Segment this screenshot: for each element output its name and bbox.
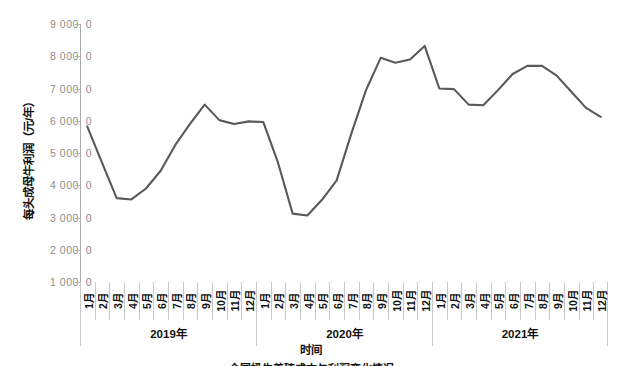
- x-axis-month-cell: 8月: [535, 282, 550, 320]
- x-tick-label: 11月: [403, 290, 418, 311]
- x-axis-month-cell: 4月: [476, 282, 491, 320]
- x-axis-month-cell: 1月: [80, 282, 95, 320]
- x-axis-month-cell: 2月: [271, 282, 286, 320]
- x-tick-label: 5月: [315, 293, 330, 309]
- x-axis-month-cell: 8月: [183, 282, 198, 320]
- x-tick-label: 9月: [198, 293, 213, 309]
- x-axis-month-cell: 6月: [505, 282, 520, 320]
- x-tick-label: 12月: [418, 290, 433, 312]
- x-axis-month-cell: 10月: [388, 282, 403, 320]
- x-tick-label: 7月: [168, 293, 183, 309]
- x-axis-month-cell: 4月: [300, 282, 315, 320]
- x-tick-label: 8月: [183, 293, 198, 309]
- x-axis-month-cell: 6月: [329, 282, 344, 320]
- x-tick-label: 8月: [359, 293, 374, 309]
- x-axis-month-cell: 8月: [359, 282, 374, 320]
- x-axis-month-cell: 6月: [153, 282, 168, 320]
- x-tick-label: 10月: [388, 290, 403, 312]
- x-axis-year-label: 2021年: [502, 325, 539, 341]
- x-axis-month-cell: 2月: [447, 282, 462, 320]
- x-tick-label: 6月: [330, 293, 345, 309]
- x-tick-label: 6月: [154, 293, 169, 309]
- x-axis-month-cell: 11月: [227, 282, 242, 320]
- y-tick-mark: [75, 24, 80, 25]
- x-tick-label: 9月: [374, 293, 389, 309]
- x-axis-month-cell: 9月: [197, 282, 212, 320]
- x-tick-label: 11月: [579, 290, 594, 311]
- x-axis-month-cell: 11月: [579, 282, 594, 320]
- x-tick-label: 3月: [110, 293, 125, 309]
- x-tick-label: 8月: [535, 293, 550, 309]
- x-tick-label: 1月: [432, 293, 447, 309]
- y-tick-mark: [75, 89, 80, 90]
- x-tick-label: 11月: [227, 290, 242, 311]
- x-tick-label: 9月: [550, 293, 565, 309]
- x-tick-label: 12月: [593, 290, 608, 312]
- x-axis-month-cell: 4月: [124, 282, 139, 320]
- x-tick-label: 3月: [462, 293, 477, 309]
- x-axis-month-cell: 1月: [432, 282, 447, 320]
- figure-caption: 全国奶牛养殖成本与利润变化情况: [0, 360, 622, 366]
- x-axis-month-cell: 5月: [491, 282, 506, 320]
- x-axis-month-cell: 12月: [241, 282, 256, 320]
- x-tick-label: 2月: [271, 293, 286, 309]
- x-axis-month-cell: 12月: [417, 282, 432, 320]
- y-tick-mark: [75, 250, 80, 251]
- x-tick-label: 10月: [564, 290, 579, 312]
- y-tick-mark: [75, 218, 80, 219]
- x-tick-label: 6月: [506, 293, 521, 309]
- y-tick-mark: [75, 185, 80, 186]
- x-axis-month-cell: 9月: [549, 282, 564, 320]
- x-tick-label: 4月: [124, 293, 139, 309]
- x-axis-month-cell: 11月: [403, 282, 418, 320]
- x-axis-month-cell: 5月: [139, 282, 154, 320]
- x-axis-year-label: 2019年: [150, 325, 187, 341]
- x-axis-month-cell: 7月: [168, 282, 183, 320]
- x-tick-label: 7月: [344, 293, 359, 309]
- x-axis-month-cell: 1月: [256, 282, 271, 320]
- x-tick-label: 12月: [242, 290, 257, 312]
- chart-container: 每头成母牛利润（元/年） 9 000. 08 000. 07 000. 06 0…: [0, 0, 622, 366]
- x-tick-label: 3月: [286, 293, 301, 309]
- x-tick-label: 10月: [212, 290, 227, 312]
- x-tick-label: 2月: [447, 293, 462, 309]
- x-axis-month-cell: 5月: [315, 282, 330, 320]
- y-tick-mark: [75, 56, 80, 57]
- x-axis-month-cell: 10月: [564, 282, 579, 320]
- y-tick-mark: [75, 153, 80, 154]
- x-tick-label: 5月: [139, 293, 154, 309]
- plot-area: [80, 24, 608, 282]
- x-axis-year-label: 2020年: [326, 325, 363, 341]
- x-tick-label: 2月: [95, 293, 110, 309]
- x-axis-month-cell: 3月: [109, 282, 124, 320]
- x-tick-label: 7月: [520, 293, 535, 309]
- x-tick-label: 4月: [476, 293, 491, 309]
- x-tick-label: 5月: [491, 293, 506, 309]
- x-tick-label: 1月: [80, 293, 95, 309]
- y-tick-mark: [75, 121, 80, 122]
- y-tick-mark: [75, 282, 80, 283]
- x-axis-month-cell: 12月: [593, 282, 608, 320]
- x-axis-month-cell: 10月: [212, 282, 227, 320]
- x-axis-title: 时间: [0, 341, 622, 357]
- x-axis-month-cell: 2月: [95, 282, 110, 320]
- x-axis-month-cell: 7月: [520, 282, 535, 320]
- profit-line-series: [80, 24, 608, 282]
- x-axis-month-cell: 7月: [344, 282, 359, 320]
- x-axis-month-cell: 9月: [373, 282, 388, 320]
- x-tick-label: 4月: [300, 293, 315, 309]
- x-tick-label: 1月: [256, 293, 271, 309]
- x-axis-month-cell: 3月: [285, 282, 300, 320]
- x-axis-month-cell: 3月: [461, 282, 476, 320]
